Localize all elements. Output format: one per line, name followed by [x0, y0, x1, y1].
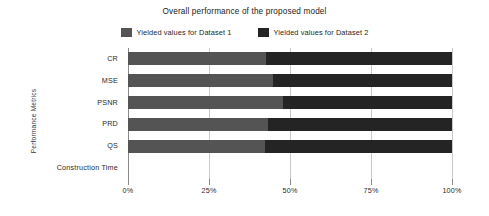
bar-row[interactable]: [128, 118, 452, 131]
y-axis-label: PSNR: [97, 98, 118, 107]
bar-segment[interactable]: [128, 140, 265, 153]
x-axis-label: 100%: [442, 186, 461, 195]
bar-segment[interactable]: [128, 118, 268, 131]
bar-row[interactable]: [128, 74, 452, 87]
gridline-100: [452, 48, 453, 179]
y-axis-label: QS: [107, 141, 118, 150]
legend-item-dataset-2[interactable]: Yielded values for Dataset 2: [258, 28, 369, 37]
bar-segment[interactable]: [283, 96, 452, 109]
bar-row[interactable]: [128, 52, 452, 65]
y-axis-label: CR: [107, 54, 118, 63]
x-axis-label: 0%: [123, 186, 134, 195]
chart-legend: Yielded values for Dataset 1 Yielded val…: [0, 28, 489, 37]
bar-row[interactable]: [128, 96, 452, 109]
x-axis-tick-mark: [371, 179, 372, 185]
y-axis-tick-labels: CRMSEPSNRPRDQSConstruction Time: [0, 48, 124, 179]
bar-chart: Overall performance of the proposed mode…: [0, 0, 489, 216]
y-axis-label: PRD: [102, 119, 118, 128]
x-axis-label: 25%: [202, 186, 217, 195]
bar-segment[interactable]: [273, 74, 452, 87]
x-axis-label: 75%: [364, 186, 379, 195]
bar-segment[interactable]: [265, 140, 452, 153]
legend-item-dataset-1[interactable]: Yielded values for Dataset 1: [121, 28, 232, 37]
y-axis-label: Construction Time: [57, 163, 118, 172]
x-axis-tick-labels: 0%25%50%75%100%: [128, 186, 452, 200]
bar-segment[interactable]: [128, 52, 266, 65]
bar-series-container: [128, 48, 452, 179]
y-axis-label: MSE: [102, 76, 118, 85]
bar-segment[interactable]: [268, 118, 452, 131]
bar-segment[interactable]: [128, 96, 283, 109]
x-axis-tick-mark: [452, 179, 453, 185]
legend-swatch-icon-dataset-2: [258, 28, 269, 37]
plot-area: [128, 48, 452, 179]
bar-row[interactable]: [128, 140, 452, 153]
bar-segment[interactable]: [266, 52, 452, 65]
legend-label-dataset-2: Yielded values for Dataset 2: [274, 28, 369, 37]
x-axis-tick-mark: [128, 179, 129, 185]
x-axis-label: 50%: [283, 186, 298, 195]
legend-label-dataset-1: Yielded values for Dataset 1: [137, 28, 232, 37]
chart-title: Overall performance of the proposed mode…: [0, 7, 489, 16]
x-axis-tick-mark: [209, 179, 210, 185]
legend-swatch-icon-dataset-1: [121, 28, 132, 37]
bar-segment[interactable]: [128, 74, 273, 87]
x-axis-tick-mark: [290, 179, 291, 185]
